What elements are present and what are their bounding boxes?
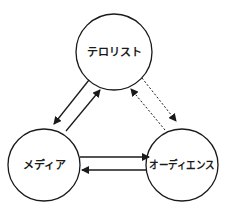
node-audience-label: オーディエンス [149, 158, 215, 172]
node-audience: オーディエンス [146, 129, 218, 201]
node-media-label: メディア [23, 158, 66, 172]
node-media: メディア [8, 129, 80, 201]
arrow-media-to-terrorist [66, 90, 100, 131]
node-terrorist: テロリスト [76, 14, 152, 90]
arrow-audience-to-terrorist [131, 89, 165, 130]
arrow-terrorist-to-audience [142, 78, 176, 121]
arrow-terrorist-to-media [54, 80, 89, 124]
node-terrorist-label: テロリスト [87, 46, 142, 59]
triangle-relationship-diagram: テロリスト メディア オーディエンス [0, 0, 227, 211]
